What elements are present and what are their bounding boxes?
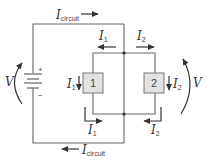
source-voltage-arrow xyxy=(15,63,23,104)
component-1: 1 xyxy=(83,73,103,93)
current-circuit-bottom: Icircuit xyxy=(62,143,105,157)
minus-sign: − xyxy=(38,91,43,100)
component-2-label: 2 xyxy=(151,77,157,89)
svg-text:I2: I2 xyxy=(150,123,160,137)
plus-sign: + xyxy=(38,65,43,74)
svg-text:Icircuit: Icircuit xyxy=(81,143,105,157)
svg-text:I2: I2 xyxy=(136,29,146,43)
svg-text:Icircuit: Icircuit xyxy=(55,8,79,22)
svg-text:I2: I2 xyxy=(172,77,182,91)
current-2-side: I2 xyxy=(169,76,182,91)
current-2-top: I2 xyxy=(136,29,154,47)
svg-text:I1: I1 xyxy=(66,77,76,91)
component-2: 2 xyxy=(144,73,164,93)
current-circuit-top: Icircuit xyxy=(55,8,98,22)
load-voltage-label: V xyxy=(193,76,203,90)
circuit-diagram: + − V 1 2 Icircuit I1 I2 I1 I2 xyxy=(0,0,210,168)
component-1-label: 1 xyxy=(90,77,96,89)
current-1-top: I1 xyxy=(98,29,116,47)
source-voltage-label: V xyxy=(5,75,15,89)
load-voltage-arrow xyxy=(181,59,190,114)
junction-bottom xyxy=(122,112,125,115)
current-2-bottom: I2 xyxy=(144,107,161,137)
junction-top xyxy=(122,51,125,54)
svg-text:I1: I1 xyxy=(87,123,97,137)
svg-text:I1: I1 xyxy=(98,29,108,43)
current-1-side: I1 xyxy=(66,76,79,91)
